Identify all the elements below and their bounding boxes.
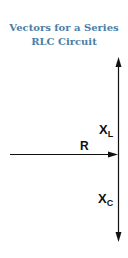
r-arrowhead-icon (108, 152, 118, 158)
xc-arrowhead-icon (116, 232, 122, 242)
xc-label: XC (98, 191, 114, 208)
r-label: R (80, 139, 89, 153)
xl-arrowhead-icon (116, 57, 122, 67)
xl-label: XL (99, 122, 114, 139)
vector-diagram: XL R XC (0, 0, 128, 258)
